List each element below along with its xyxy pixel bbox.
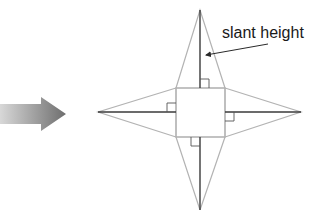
base-square: [176, 88, 225, 137]
right-angle-bottom: [191, 137, 200, 146]
right-angle-left: [167, 103, 176, 112]
slant-height-label: slant height: [222, 24, 304, 42]
right-angle-right: [225, 112, 234, 121]
label-leader-arrow: [206, 44, 268, 55]
transform-arrow-icon: [0, 97, 66, 131]
pyramid-net-diagram: slant height: [0, 0, 326, 210]
right-angle-top: [200, 79, 209, 88]
right-angle-markers: [167, 79, 234, 146]
